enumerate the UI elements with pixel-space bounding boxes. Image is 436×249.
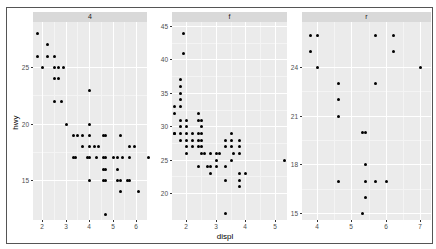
y-tick-label: 18: [278, 161, 298, 168]
gridline-major: [216, 22, 217, 220]
x-tick-label: 7: [413, 223, 427, 230]
data-point: [364, 163, 367, 166]
y-tick-label: 30: [148, 123, 168, 130]
data-point: [203, 152, 206, 155]
data-point: [173, 132, 176, 135]
x-tick-label: 5: [344, 223, 358, 230]
data-point: [104, 179, 107, 182]
data-point: [53, 100, 56, 103]
gridline-major: [302, 213, 431, 214]
gridline-minor: [334, 22, 335, 220]
y-tick-label: 20: [148, 190, 168, 197]
gridline-major: [275, 22, 276, 220]
data-point: [361, 212, 364, 215]
data-point: [224, 145, 227, 148]
gridline-major: [42, 22, 43, 220]
data-point: [72, 134, 75, 137]
data-point: [215, 165, 218, 168]
data-point: [133, 145, 136, 148]
y-tick-label: 21: [278, 113, 298, 120]
y-tick-label: 25: [9, 64, 29, 71]
data-point: [36, 55, 39, 58]
data-point: [374, 82, 377, 85]
data-point: [46, 55, 49, 58]
gridline-minor: [172, 76, 287, 77]
data-point: [191, 139, 194, 142]
gridline-minor: [172, 176, 287, 177]
x-tick-label: 6: [129, 223, 143, 230]
gridline-major: [172, 59, 287, 60]
gridline-minor: [33, 95, 147, 96]
x-tick-mark: [351, 220, 352, 222]
data-point: [88, 89, 91, 92]
data-point: [209, 172, 212, 175]
gridline-major: [245, 22, 246, 220]
data-point: [88, 145, 91, 148]
gridline-minor: [172, 43, 287, 44]
data-point: [88, 179, 91, 182]
data-point: [230, 159, 233, 162]
data-point: [209, 165, 212, 168]
data-point: [57, 77, 60, 80]
gridline-minor: [33, 152, 147, 153]
y-tick-mark: [170, 26, 172, 27]
x-tick-mark: [113, 220, 114, 222]
data-point: [128, 179, 131, 182]
data-point: [81, 145, 84, 148]
x-tick-mark: [420, 220, 421, 222]
data-point: [185, 145, 188, 148]
y-tick-label: 45: [148, 23, 168, 30]
y-tick-mark: [31, 67, 33, 68]
x-tick-mark: [136, 220, 137, 222]
gridline-minor: [172, 110, 287, 111]
data-point: [337, 115, 340, 118]
data-point: [200, 125, 203, 128]
y-tick-label: 15: [278, 210, 298, 217]
data-point: [76, 134, 79, 137]
facet-strip-label: 4: [33, 12, 147, 22]
gridline-major: [172, 193, 287, 194]
data-point: [215, 159, 218, 162]
data-point: [232, 152, 235, 155]
data-point: [185, 152, 188, 155]
data-point: [81, 134, 84, 137]
x-tick-label: 3: [59, 223, 73, 230]
data-point: [224, 212, 227, 215]
gridline-major: [66, 22, 67, 220]
data-point: [191, 132, 194, 135]
data-point: [238, 179, 241, 182]
data-point: [374, 180, 377, 183]
data-point: [385, 180, 388, 183]
data-point: [128, 145, 131, 148]
y-tick-mark: [31, 124, 33, 125]
y-tick-label: 25: [148, 157, 168, 164]
gridline-major: [351, 22, 352, 220]
data-point: [53, 66, 56, 69]
data-point: [364, 131, 367, 134]
gridline-major: [317, 22, 318, 220]
gridline-major: [113, 22, 114, 220]
data-point: [197, 112, 200, 115]
data-point: [179, 78, 182, 81]
data-point: [179, 125, 182, 128]
x-tick-label: 4: [310, 223, 324, 230]
data-point: [374, 34, 377, 37]
gridline-major: [302, 116, 431, 117]
data-point: [179, 85, 182, 88]
data-point: [60, 100, 63, 103]
gridline-major: [302, 67, 431, 68]
data-point: [179, 119, 182, 122]
data-point: [57, 66, 60, 69]
data-point: [119, 179, 122, 182]
gridline-minor: [172, 143, 287, 144]
data-point: [62, 66, 65, 69]
x-tick-label: 6: [379, 223, 393, 230]
data-point: [88, 134, 91, 137]
data-point: [116, 156, 119, 159]
data-point: [224, 165, 227, 168]
y-tick-label: 24: [278, 64, 298, 71]
data-point: [238, 145, 241, 148]
data-point: [65, 123, 68, 126]
x-tick-label: 3: [209, 223, 223, 230]
data-point: [191, 145, 194, 148]
